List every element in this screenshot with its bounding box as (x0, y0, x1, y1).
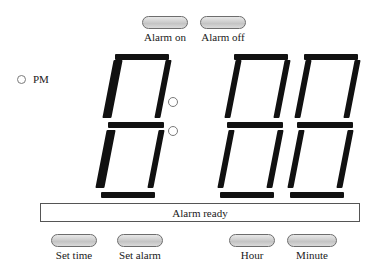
display-colon (168, 97, 178, 136)
digit-4-segment-f (294, 60, 311, 118)
alarm-off-button-label: Alarm off (201, 30, 244, 44)
digit-3-segment-g (227, 122, 283, 128)
alarm-on-button-label: Alarm on (144, 30, 186, 44)
colon-dot-upper-icon (168, 97, 178, 107)
digit-3-segment-a (234, 54, 288, 60)
digit-2-segment-f (105, 60, 122, 118)
set-time-button[interactable]: Set time (51, 234, 97, 262)
digit-4-segment-g (297, 122, 353, 128)
hour-button[interactable]: Hour (229, 234, 275, 262)
alarm-on-button-cap[interactable] (142, 16, 188, 29)
set-alarm-button[interactable]: Set alarm (117, 234, 163, 262)
display-digit-4 (283, 52, 369, 202)
status-strip: Alarm ready (40, 203, 360, 222)
hour-button-label: Hour (241, 248, 264, 262)
digit-4-segment-b (343, 60, 360, 118)
minute-button-cap[interactable] (287, 234, 337, 247)
alarm-off-button[interactable]: Alarm off (200, 16, 246, 44)
digit-2-segment-g (108, 122, 164, 128)
digit-3-segment-c (266, 130, 283, 188)
digit-4-segment-d (290, 192, 344, 198)
digit-3-segment-e (217, 130, 234, 188)
digit-2-segment-a (115, 54, 169, 60)
status-text: Alarm ready (172, 207, 227, 219)
time-display (0, 52, 383, 202)
set-alarm-button-label: Set alarm (119, 248, 161, 262)
set-alarm-button-cap[interactable] (117, 234, 163, 247)
digit-4-segment-a (304, 54, 358, 60)
colon-dot-lower-icon (168, 126, 178, 136)
minute-button-label: Minute (296, 248, 328, 262)
digit-2-segment-e (98, 130, 115, 188)
digit-4-segment-c (336, 130, 353, 188)
set-time-button-label: Set time (56, 248, 92, 262)
digit-3-segment-f (224, 60, 241, 118)
digit-4-segment-e (287, 130, 304, 188)
alarm-off-button-cap[interactable] (200, 16, 246, 29)
alarm-clock-panel: Alarm on Alarm off PM (0, 0, 383, 278)
minute-button[interactable]: Minute (287, 234, 337, 262)
set-time-button-cap[interactable] (51, 234, 97, 247)
digit-3-segment-d (220, 192, 274, 198)
alarm-on-button[interactable]: Alarm on (142, 16, 188, 44)
digit-2-segment-d (101, 192, 155, 198)
hour-button-cap[interactable] (229, 234, 275, 247)
digit-2-segment-c (147, 130, 164, 188)
